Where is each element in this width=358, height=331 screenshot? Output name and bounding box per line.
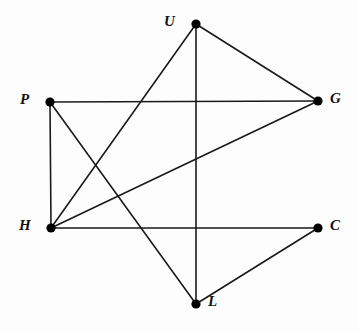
graph-edge-u-g (196, 24, 318, 101)
graph-canvas (0, 0, 358, 331)
graph-diagram: UPGHCL (0, 0, 358, 331)
graph-vertex-p[interactable] (45, 97, 54, 106)
edge-layer (50, 24, 318, 304)
vertex-label-g: G (330, 91, 341, 106)
graph-edge-p-l (50, 102, 196, 304)
vertex-label-c: C (330, 218, 340, 233)
vertex-label-p: P (20, 92, 29, 107)
vertex-label-u: U (164, 14, 175, 29)
graph-edge-p-h (50, 102, 51, 228)
vertex-label-h: H (19, 218, 31, 233)
graph-vertex-c[interactable] (313, 223, 322, 232)
graph-vertex-u[interactable] (191, 19, 200, 28)
graph-vertex-l[interactable] (191, 299, 200, 308)
graph-vertex-h[interactable] (46, 223, 55, 232)
graph-edge-p-g (50, 101, 318, 102)
graph-vertex-g[interactable] (313, 96, 322, 105)
graph-edge-u-h (51, 24, 196, 228)
graph-edge-h-g (51, 101, 318, 228)
vertex-label-l: L (208, 294, 217, 309)
